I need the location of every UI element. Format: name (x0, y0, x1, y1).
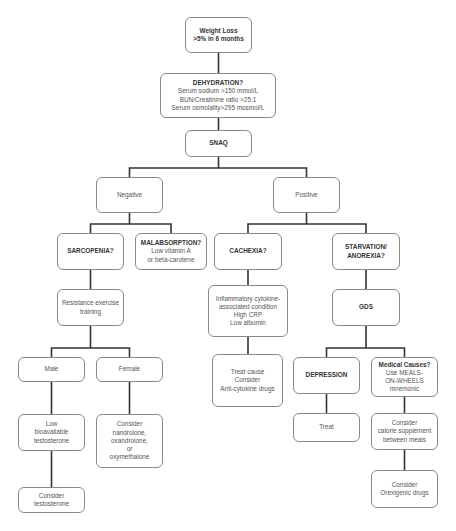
node-text: DEPRESSION (306, 371, 348, 379)
node-negative: Negative (96, 177, 163, 213)
node-text: STARVATION/ (345, 243, 387, 251)
node-sarcopenia: SARCOPENIA? (57, 233, 124, 270)
node-text: Consider (235, 376, 261, 384)
node-text: GDS (359, 303, 373, 311)
node-snaq: SNAQ (185, 130, 252, 157)
node-text: Low albumin (230, 319, 266, 327)
node-text: Low vitamin A (151, 247, 190, 255)
node-text: associated condition (219, 303, 277, 311)
node-text: Orexigenic drugs (380, 489, 428, 497)
node-text: oxandrolone, (111, 437, 148, 445)
node-female: Female (96, 357, 163, 382)
node-text: ON-WHEELS (385, 377, 424, 385)
node-treat: Treat (293, 413, 360, 442)
node-text: Negative (117, 191, 142, 199)
node-text: testosterone (34, 437, 69, 445)
node-text: Low (46, 420, 58, 428)
node-text: BUN/Creatinine ratio >25:1 (180, 96, 257, 104)
node-text: Serum sodium >150 mmol/L (178, 87, 258, 95)
node-text: SNAQ (209, 139, 227, 147)
node-text: calorie supplement (378, 427, 432, 435)
node-inflammatory: Inflammatory cytokine- associated condit… (208, 285, 288, 337)
node-text: or (127, 445, 133, 453)
node-text: training (80, 308, 101, 316)
node-cachexia: CACHEXIA? (214, 233, 282, 270)
node-calorie-supplement: Consider calorie supplement between meal… (371, 413, 438, 450)
node-consider-nandrolone: Consider nandrolone, oxandrolone, or oxy… (96, 414, 163, 468)
node-text: Consider (117, 420, 143, 428)
node-text: Consider (39, 492, 65, 500)
node-title: Medical Causes? (379, 361, 431, 369)
node-title: MALABSORPTION? (141, 239, 201, 247)
node-positive: Positive (273, 177, 340, 213)
node-weight-loss: Weight Loss >5% in 6 months (185, 17, 252, 53)
node-dehydration: DEHYDRATION? Serum sodium >150 mmol/L BU… (160, 73, 276, 118)
node-gds: GDS (332, 289, 400, 326)
node-text: Resistance exercise (62, 299, 119, 307)
node-resistance-exercise: Resistance exercise training (57, 289, 124, 326)
node-text: bioavailable (35, 428, 69, 436)
node-text: Female (119, 365, 140, 373)
node-text: Serum osmolality>295 mosmol/L (172, 104, 265, 112)
node-starvation-anorexia: STARVATION/ ANOREXIA? (332, 233, 400, 270)
node-text: Positive (295, 191, 317, 199)
node-text: Consider (392, 419, 418, 427)
node-text: Inflammatory cytokine- (216, 295, 280, 303)
node-text: nandrolone, (113, 429, 147, 437)
node-text: testosterone (34, 500, 69, 508)
node-text: between meals (383, 436, 426, 444)
node-text: Use MEALS- (386, 369, 423, 377)
node-treat-cause: Treat cause Consider Anti-cytokine drugs (212, 354, 283, 407)
node-text: Treat cause (231, 368, 265, 376)
node-text: High CRP (234, 311, 262, 319)
node-text: mnemonic (390, 385, 419, 393)
node-orexigenic: Consider Orexigenic drugs (371, 470, 438, 508)
node-text: oxymethalone (110, 453, 150, 461)
node-text: CACHEXIA? (229, 247, 266, 255)
node-text: Weight Loss (200, 27, 238, 35)
node-malabsorption: MALABSORPTION? Low vitamin A or beta-car… (135, 233, 207, 270)
node-text: Treat (319, 423, 334, 431)
node-text: Male (45, 365, 59, 373)
node-depression: DEPRESSION (293, 357, 360, 394)
flowchart-canvas: Weight Loss >5% in 6 months DEHYDRATION?… (0, 0, 456, 531)
node-text: Anti-cytokine drugs (220, 385, 274, 393)
node-consider-testosterone: Consider testosterone (18, 487, 85, 513)
node-male: Male (18, 357, 85, 382)
node-text: >5% in 6 months (193, 35, 244, 43)
node-title: DEHYDRATION? (193, 79, 243, 87)
node-medical-causes: Medical Causes? Use MEALS- ON-WHEELS mne… (371, 357, 438, 397)
node-text: SARCOPENIA? (67, 247, 114, 255)
node-text: ANOREXIA? (347, 252, 385, 260)
node-low-bioavailable-testosterone: Low bioavailable testosterone (18, 414, 85, 451)
node-text: or beta-carotene (148, 256, 195, 264)
node-text: Consider (392, 481, 418, 489)
